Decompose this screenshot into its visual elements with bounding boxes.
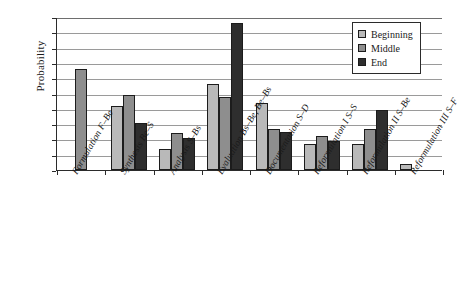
bar-group: [153, 18, 201, 170]
y-tick-mark: [52, 125, 56, 126]
legend-swatch-middle: [358, 44, 366, 52]
legend-swatch-beginning: [358, 30, 366, 38]
legend-item-beginning: Beginning: [358, 27, 413, 41]
bar-group: [298, 18, 346, 170]
legend-label-beginning: Beginning: [371, 29, 413, 40]
y-tick-mark: [52, 49, 56, 50]
chart-legend: Beginning Middle End: [352, 22, 421, 74]
y-tick-mark: [52, 18, 56, 19]
y-tick-mark: [52, 95, 56, 96]
x-tick-mark: [443, 170, 444, 175]
x-axis-labels: Formulation F–BeSynthesis Be–SAnalysis S…: [56, 171, 442, 302]
legend-swatch-end: [358, 58, 366, 66]
bar-group: [250, 18, 298, 170]
y-tick-mark: [52, 156, 56, 157]
y-axis-title: Probability: [34, 6, 46, 126]
legend-label-end: End: [371, 57, 387, 68]
legend-item-middle: Middle: [358, 41, 413, 55]
legend-label-middle: Middle: [371, 43, 400, 54]
y-tick-mark: [52, 140, 56, 141]
y-tick-mark: [52, 110, 56, 111]
bar-chart: Probability 1.00.90.80.70.60.50.40.30.20…: [0, 0, 457, 302]
y-tick-mark: [52, 64, 56, 65]
y-tick-mark: [52, 33, 56, 34]
legend-item-end: End: [358, 55, 413, 69]
bar-group: [105, 18, 153, 170]
bar-group: [57, 18, 105, 170]
y-tick-mark: [52, 79, 56, 80]
bar-beginning: [207, 84, 219, 170]
bar-group: [201, 18, 249, 170]
